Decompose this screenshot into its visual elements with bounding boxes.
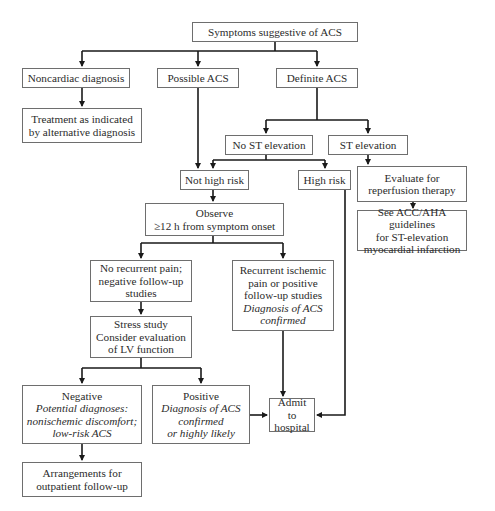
node-italic-text: Diagnosis of ACS xyxy=(243,302,322,315)
node-text: reperfusion therapy xyxy=(368,184,455,197)
node-text: ≥12 h from symptom onset xyxy=(154,220,275,233)
node-text: outpatient follow-up xyxy=(36,480,128,493)
node-text: Evaluate for xyxy=(385,172,440,185)
node-text: Admit to xyxy=(273,396,311,421)
node-italic-text: nonischemic discomfort; xyxy=(27,415,137,428)
node-text: Stress study xyxy=(114,318,168,331)
node-text: negative follow-up xyxy=(99,275,184,288)
node-italic-text: low-risk ACS xyxy=(52,427,111,440)
node-possible-acs: Possible ACS xyxy=(157,68,239,88)
node-stress-study: Stress study Consider evaluation of LV f… xyxy=(90,316,192,358)
node-text: of LV function xyxy=(108,343,174,356)
node-text: ST elevation xyxy=(340,139,397,152)
node-definite-acs: Definite ACS xyxy=(276,68,358,88)
node-italic-text: or highly likely xyxy=(167,427,235,440)
node-text: Consider evaluation xyxy=(96,331,186,344)
node-text: Negative xyxy=(62,390,102,403)
node-text: Arrangements for xyxy=(42,467,121,480)
node-text: No ST elevation xyxy=(232,139,305,152)
node-text: High risk xyxy=(304,174,346,187)
node-no-recurrent-pain: No recurrent pain; negative follow-up st… xyxy=(90,260,192,302)
node-text: for ST-elevation xyxy=(376,231,449,244)
node-text: Definite ACS xyxy=(287,72,348,85)
node-text: pain or positive xyxy=(248,277,318,290)
node-text: Symptoms suggestive of ACS xyxy=(208,26,342,39)
node-text: myocardial infarction xyxy=(364,243,461,256)
node-text: Observe xyxy=(196,207,233,220)
node-text: See ACC/AHA guidelines xyxy=(361,206,463,231)
node-text: Noncardiac diagnosis xyxy=(28,72,125,85)
node-outpatient-arrangements: Arrangements for outpatient follow-up xyxy=(22,462,142,497)
node-symptoms: Symptoms suggestive of ACS xyxy=(192,22,358,42)
node-treatment: Treatment as indicated by alternative di… xyxy=(22,108,142,143)
node-italic-text: Diagnosis of ACS xyxy=(161,402,240,415)
node-recurrent-ischemic-pain: Recurrent ischemic pain or positive foll… xyxy=(232,260,334,331)
node-italic-text: confirmed xyxy=(260,314,305,327)
node-not-high-risk: Not high risk xyxy=(180,170,249,190)
node-text: Possible ACS xyxy=(167,72,228,85)
node-observe: Observe ≥12 h from symptom onset xyxy=(145,203,284,236)
node-italic-text: Potential diagnoses: xyxy=(36,402,128,415)
node-st-elevation: ST elevation xyxy=(328,135,408,155)
node-text: Treatment as indicated xyxy=(31,113,133,126)
node-text: follow-up studies xyxy=(244,289,322,302)
node-text: Recurrent ischemic xyxy=(240,264,327,277)
node-admit-to-hospital: Admit to hospital xyxy=(269,398,315,432)
node-text: Not high risk xyxy=(185,174,244,187)
node-see-acc-aha-guidelines: See ACC/AHA guidelines for ST-elevation … xyxy=(357,210,467,251)
node-text: No recurrent pain; xyxy=(100,262,182,275)
node-positive: Positive Diagnosis of ACS confirmed or h… xyxy=(152,385,250,444)
node-text: studies xyxy=(125,287,156,300)
node-evaluate-reperfusion: Evaluate for reperfusion therapy xyxy=(357,166,467,202)
node-text: Positive xyxy=(183,390,219,403)
node-text: hospital xyxy=(274,421,309,434)
node-italic-text: confirmed xyxy=(178,415,223,428)
node-text: by alternative diagnosis xyxy=(29,126,135,139)
node-noncardiac-diagnosis: Noncardiac diagnosis xyxy=(22,68,130,88)
node-negative: Negative Potential diagnoses: nonischemi… xyxy=(22,385,142,444)
node-no-st-elevation: No ST elevation xyxy=(225,135,313,155)
node-high-risk: High risk xyxy=(298,170,351,190)
